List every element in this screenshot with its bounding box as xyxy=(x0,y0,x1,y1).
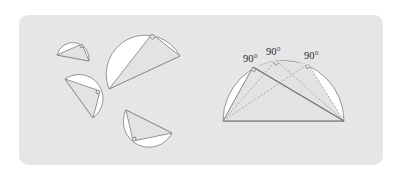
semicircle-piece-bottom-right xyxy=(123,110,172,147)
semicircle-with-inscribed-triangles: 90° 90° 90° xyxy=(223,46,344,121)
angle-label-1: 90° xyxy=(243,53,258,64)
semicircle-piece-middle-left xyxy=(65,74,103,118)
angle-label-3: 90° xyxy=(304,50,319,61)
angle-label-2: 90° xyxy=(266,46,281,57)
thales-theorem-diagram: 90° 90° 90° xyxy=(0,0,398,181)
semicircle-piece-large-top-center xyxy=(106,34,180,89)
semicircle-piece-small-top-left xyxy=(57,43,89,61)
